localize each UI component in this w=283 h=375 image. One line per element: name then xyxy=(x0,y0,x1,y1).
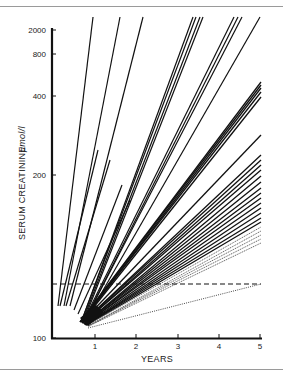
patient-line-steep xyxy=(83,17,200,320)
patient-line-mid xyxy=(81,92,261,322)
y-tick-label: 2000 xyxy=(28,26,46,35)
x-axis-title: YEARS xyxy=(141,354,173,364)
patient-line-mid xyxy=(82,97,261,322)
patient-line-low xyxy=(86,218,261,325)
patient-line-low xyxy=(85,198,261,324)
y-tick-label: 100 xyxy=(33,334,47,343)
y-tick-label: 400 xyxy=(33,92,47,101)
creatinine-chart: 2000800400200100 12345 YEARS SERUM CREAT… xyxy=(0,0,283,375)
y-tick-label: 200 xyxy=(33,171,47,180)
x-tick-label: 2 xyxy=(134,342,139,351)
patient-line-steep xyxy=(84,17,234,320)
x-ticks: 12345 xyxy=(93,334,263,351)
x-tick-label: 5 xyxy=(258,342,263,351)
patient-lines xyxy=(52,17,261,328)
y-axis-title: SERUM CREATININE xyxy=(17,146,27,240)
y-tick-label: 800 xyxy=(33,50,47,59)
patient-line-low xyxy=(82,160,261,323)
patient-line-steep xyxy=(58,17,93,306)
x-tick-label: 4 xyxy=(217,342,222,351)
x-tick-label: 1 xyxy=(93,342,98,351)
x-tick-label: 3 xyxy=(176,342,181,351)
y-axis-unit: μmol/l xyxy=(17,126,27,153)
patient-line-steep xyxy=(85,17,242,320)
